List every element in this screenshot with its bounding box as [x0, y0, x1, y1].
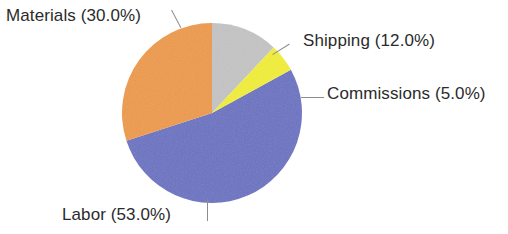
pie-label-shipping: Shipping (12.0%)	[303, 31, 435, 51]
leader-line-labor	[207, 199, 208, 221]
pie-label-commissions: Commissions (5.0%)	[327, 84, 486, 104]
leader-line-commissions	[301, 97, 324, 98]
pie-chart-figure: Materials (30.0%) Shipping (12.0%) Commi…	[0, 0, 508, 234]
pie-label-materials: Materials (30.0%)	[6, 6, 141, 26]
pie-label-labor: Labor (53.0%)	[62, 205, 171, 225]
